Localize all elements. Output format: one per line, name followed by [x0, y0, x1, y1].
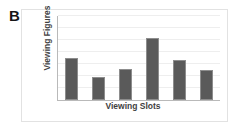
x-axis-label: Viewing Slots	[58, 101, 208, 112]
bar	[92, 77, 104, 100]
bar	[146, 38, 158, 100]
y-axis-label: Viewing Figures	[41, 1, 53, 75]
bar-series	[58, 16, 220, 100]
bar	[65, 58, 77, 100]
bar	[119, 69, 131, 100]
figure-panel: B Viewing Figures Viewing Slots	[0, 0, 238, 132]
plot-area	[57, 16, 220, 101]
bar	[173, 60, 185, 100]
chart-frame: Viewing Figures Viewing Slots	[21, 9, 228, 122]
panel-label-b: B	[9, 8, 20, 23]
bar	[200, 70, 212, 100]
